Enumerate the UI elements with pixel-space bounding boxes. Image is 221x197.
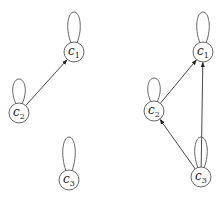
self-loop-c2	[13, 79, 26, 104]
edge-c2-to-c1	[26, 60, 67, 106]
self-loop-c3	[63, 137, 76, 171]
causal-graph-diagram: c1c2c3c1c2c3	[0, 0, 221, 197]
right-graph-edges	[160, 60, 203, 169]
self-loop-c2	[148, 78, 161, 102]
node-c3: c3	[59, 170, 79, 190]
node-c2: c2	[144, 101, 164, 121]
self-loop-c1	[197, 12, 210, 43]
left-graph-nodes: c1c2c3	[9, 12, 84, 190]
edge-c3-to-c2	[160, 120, 195, 169]
node-c1: c1	[64, 42, 84, 62]
node-c3: c3	[191, 167, 211, 187]
edge-c3-to-c1	[201, 62, 203, 167]
left-graph-edges	[26, 60, 67, 106]
edge-c2-to-c1	[160, 60, 196, 103]
node-c1: c1	[193, 42, 213, 62]
self-loop-c1	[68, 12, 81, 43]
node-c2: c2	[9, 103, 29, 123]
